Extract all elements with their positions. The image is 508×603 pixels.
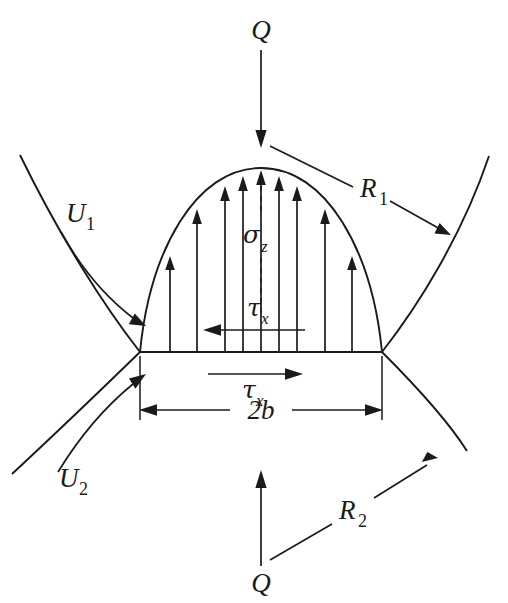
r2-leader-to-surface xyxy=(374,465,427,498)
label-velocity-top-subscript: 1 xyxy=(86,214,95,234)
label-radius-bottom-group: R 2 xyxy=(338,495,367,531)
load-arrow-top-head xyxy=(255,130,266,148)
pressure-arrowhead xyxy=(347,256,357,270)
u1-flow-shaft xyxy=(61,232,133,318)
dim-arrowhead-left xyxy=(139,404,157,416)
label-normal-stress-group: σ z xyxy=(243,220,268,256)
label-velocity-bottom-group: U 2 xyxy=(59,463,88,499)
label-shear-upper-group: τ x xyxy=(247,293,269,328)
label-contact-width: 2b xyxy=(248,395,275,425)
u2-flow-shaft xyxy=(58,384,133,472)
label-normal-stress-subscript: z xyxy=(260,237,268,256)
r1-leader-arrowhead xyxy=(435,223,452,235)
shear-arrow-upper xyxy=(203,324,305,336)
figure-root: Q Q R 1 R 2 U 1 U 2 σ z τ x τ x 2b xyxy=(0,0,508,603)
shear-upper-arrowhead xyxy=(203,324,221,336)
pressure-arrowhead xyxy=(192,209,202,224)
label-radius-top: R xyxy=(359,173,377,203)
pressure-arrowhead xyxy=(238,176,248,191)
load-arrow-top xyxy=(255,50,266,148)
label-load-top: Q xyxy=(251,15,271,45)
pressure-arrowhead xyxy=(220,186,230,201)
shear-lower-arrowhead xyxy=(285,368,303,380)
label-load-bottom: Q xyxy=(251,568,271,598)
lower-body-surface xyxy=(12,352,467,474)
r2-leader-from-load xyxy=(270,524,332,560)
pressure-arrowhead xyxy=(320,209,330,224)
label-normal-stress: σ xyxy=(243,220,261,249)
load-arrow-bottom-head xyxy=(255,470,266,488)
hertzian-contact-diagram: Q Q R 1 R 2 U 1 U 2 σ z τ x τ x 2b xyxy=(0,0,508,603)
r1-leader-to-surface xyxy=(390,201,440,229)
label-velocity-bottom-subscript: 2 xyxy=(79,479,88,499)
dim-arrowhead-right xyxy=(365,404,383,416)
label-radius-bottom: R xyxy=(338,495,356,525)
pressure-arrowhead xyxy=(274,176,284,191)
load-arrow-bottom xyxy=(255,470,266,566)
lower-right-surface-curve xyxy=(382,352,467,451)
label-radius-top-subscript: 1 xyxy=(379,189,388,209)
pressure-arrowhead xyxy=(165,256,175,270)
label-shear-upper-subscript: x xyxy=(260,309,269,328)
upper-right-surface-curve xyxy=(382,156,489,352)
r1-leader-from-load xyxy=(270,146,353,187)
pressure-arrowhead xyxy=(256,170,266,185)
label-velocity-bottom: U xyxy=(59,463,80,493)
label-radius-bottom-subscript: 2 xyxy=(358,511,367,531)
pressure-arrowhead xyxy=(292,186,302,201)
upper-body-surface xyxy=(20,155,489,352)
lower-left-surface-curve xyxy=(12,352,140,474)
r2-leader-arrowhead xyxy=(422,452,438,462)
label-velocity-top-group: U 1 xyxy=(66,198,95,234)
label-radius-top-group: R 1 xyxy=(359,173,388,209)
upper-left-surface-curve xyxy=(20,155,140,352)
u1-flow-arrow xyxy=(61,232,146,326)
label-shear-upper: τ xyxy=(247,293,262,322)
u2-flow-arrowhead xyxy=(129,374,146,389)
label-velocity-top: U xyxy=(66,198,87,228)
